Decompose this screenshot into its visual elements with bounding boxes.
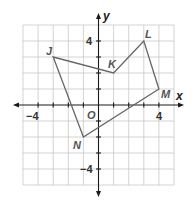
x-axis-left-arrow-icon <box>13 103 19 108</box>
y-axis-bottom-arrow-icon <box>96 191 101 197</box>
y-tick-4: 4 <box>86 35 93 47</box>
vertex-label-m: M <box>161 88 171 100</box>
y-axis-label: y <box>102 9 111 23</box>
origin-label: O <box>87 109 96 121</box>
vertex-label-k: K <box>108 58 117 70</box>
y-axis-top-arrow-icon <box>96 13 101 19</box>
x-tick-neg4: −4 <box>26 110 39 122</box>
vertex-label-l: L <box>145 28 152 40</box>
y-tick-neg4: −4 <box>80 163 93 175</box>
x-tick-4: 4 <box>156 110 163 122</box>
x-axis-right-arrow-icon <box>178 103 184 108</box>
x-axis-label: x <box>175 89 184 103</box>
vertex-label-j: J <box>46 45 53 57</box>
vertex-label-n: N <box>73 139 82 151</box>
coordinate-plane: x y O −4 4 4 −4 J K L M N <box>0 0 195 208</box>
